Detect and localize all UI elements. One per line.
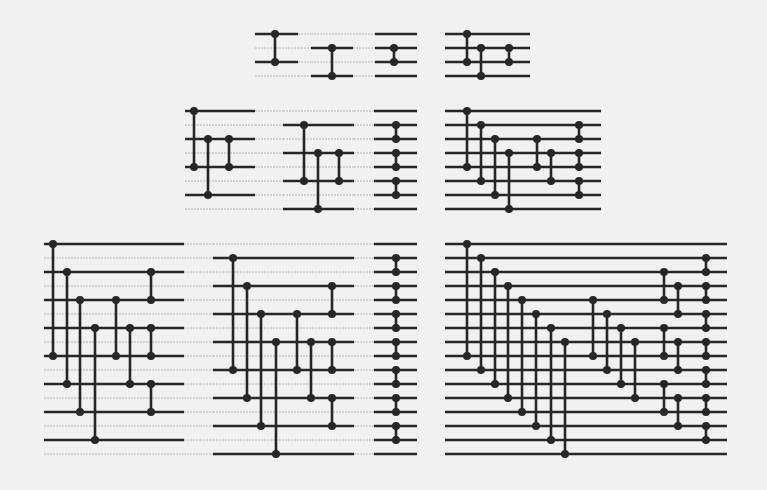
comparator-dot: [702, 366, 710, 374]
comparator-dot: [63, 380, 71, 388]
comparator-dot: [660, 408, 668, 416]
comparator-dot: [674, 282, 682, 290]
comparator-dot: [463, 30, 471, 38]
comparator-dot: [660, 380, 668, 388]
comparator-dot: [307, 394, 315, 402]
comparator-dot: [477, 44, 485, 52]
comparator-dot: [477, 177, 485, 185]
comparator-dot: [204, 191, 212, 199]
comparator-dot: [702, 338, 710, 346]
comparator-dot: [204, 135, 212, 143]
comparator-dot: [575, 135, 583, 143]
comparator-dot: [505, 44, 513, 52]
comparator-dot: [307, 338, 315, 346]
comparator-dot: [505, 58, 513, 66]
comparator-dot: [392, 324, 400, 332]
comparator-dot: [126, 380, 134, 388]
comparator-dot: [702, 352, 710, 360]
comparator-dot: [335, 177, 343, 185]
comparator-dot: [547, 324, 555, 332]
comparator-dot: [504, 394, 512, 402]
comparator-dot: [491, 268, 499, 276]
comparator-dot: [225, 163, 233, 171]
scanned-page: [0, 0, 767, 490]
comparator-dot: [392, 338, 400, 346]
comparator-dot: [91, 324, 99, 332]
comparator-dot: [314, 205, 322, 213]
comparator-dot: [547, 436, 555, 444]
comparator-dot: [271, 30, 279, 38]
comparator-dot: [702, 380, 710, 388]
comparator-dot: [702, 282, 710, 290]
comparator-dot: [392, 408, 400, 416]
comparator-dot: [463, 107, 471, 115]
comparator-dot: [392, 135, 400, 143]
comparator-dot: [147, 296, 155, 304]
comparator-dot: [532, 310, 540, 318]
comparator-dot: [674, 366, 682, 374]
comparator-dot: [392, 254, 400, 262]
comparator-dot: [335, 149, 343, 157]
comparator-dot: [463, 58, 471, 66]
comparator-dot: [390, 58, 398, 66]
comparator-dot: [76, 408, 84, 416]
comparator-dot: [271, 58, 279, 66]
comparator-dot: [392, 366, 400, 374]
comparator-dot: [49, 352, 57, 360]
comparator-dot: [76, 296, 84, 304]
comparator-dot: [147, 380, 155, 388]
comparator-dot: [272, 338, 280, 346]
comparator-dot: [300, 177, 308, 185]
comparator-dot: [491, 191, 499, 199]
comparator-dot: [272, 450, 280, 458]
comparator-dot: [328, 338, 336, 346]
comparator-dot: [392, 149, 400, 157]
comparator-dot: [589, 352, 597, 360]
comparator-dot: [328, 394, 336, 402]
comparator-dot: [147, 352, 155, 360]
comparator-dot: [390, 44, 398, 52]
comparator-dot: [603, 310, 611, 318]
comparator-dot: [491, 380, 499, 388]
comparator-dot: [49, 240, 57, 248]
comparator-dot: [225, 135, 233, 143]
comparator-dot: [674, 310, 682, 318]
comparator-dot: [660, 268, 668, 276]
comparator-dot: [257, 422, 265, 430]
comparator-dot: [314, 149, 322, 157]
comparator-dot: [575, 149, 583, 157]
comparator-network-figure: [0, 0, 767, 490]
comparator-dot: [392, 163, 400, 171]
comparator-dot: [505, 149, 513, 157]
comparator-dot: [126, 324, 134, 332]
comparator-dot: [328, 44, 336, 52]
comparator-dot: [392, 380, 400, 388]
comparator-dot: [392, 177, 400, 185]
comparator-dot: [532, 422, 540, 430]
comparator-dot: [328, 422, 336, 430]
comparator-dot: [300, 121, 308, 129]
comparator-dot: [147, 268, 155, 276]
comparator-dot: [575, 191, 583, 199]
comparator-dot: [631, 338, 639, 346]
comparator-dot: [392, 310, 400, 318]
comparator-dot: [243, 394, 251, 402]
comparator-dot: [518, 408, 526, 416]
comparator-dot: [603, 366, 611, 374]
comparator-dot: [575, 163, 583, 171]
comparator-dot: [147, 408, 155, 416]
comparator-dot: [660, 324, 668, 332]
comparator-dot: [229, 254, 237, 262]
comparator-dot: [631, 394, 639, 402]
comparator-dot: [504, 282, 512, 290]
comparator-dot: [392, 352, 400, 360]
comparator-dot: [328, 72, 336, 80]
comparator-dot: [392, 268, 400, 276]
comparator-dot: [190, 107, 198, 115]
comparator-dot: [533, 163, 541, 171]
comparator-dot: [328, 366, 336, 374]
comparator-dot: [617, 324, 625, 332]
comparator-dot: [674, 338, 682, 346]
comparator-dot: [63, 268, 71, 276]
comparator-dot: [392, 296, 400, 304]
